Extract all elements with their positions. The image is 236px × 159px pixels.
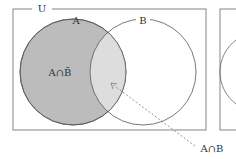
intersection-region: [90, 19, 196, 125]
set-b-label: B: [139, 15, 146, 26]
second-universe-rect: [220, 9, 236, 130]
universe-label: U: [38, 3, 46, 14]
pointer-arrow: [112, 84, 195, 146]
second-circle-arc: [220, 40, 236, 104]
region-a-and-b-label: A∩B: [200, 143, 224, 154]
region-a-not-b-label: A∩B̄: [48, 67, 72, 78]
set-a-label: A: [71, 15, 80, 26]
venn-diagram: U A B A∩B̄ A∩B: [0, 0, 236, 159]
